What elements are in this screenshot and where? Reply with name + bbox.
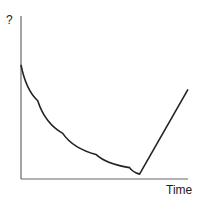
- chart: ? Time: [0, 0, 197, 210]
- chart-plot: [0, 0, 197, 210]
- data-line: [21, 65, 188, 174]
- y-axis-label: ?: [6, 13, 13, 27]
- x-axis-label: Time: [166, 183, 192, 197]
